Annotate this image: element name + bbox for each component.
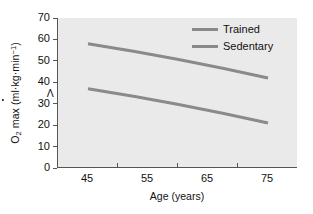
legend-swatch [192,28,218,31]
x-axis-tick-label: 55 [141,172,153,185]
chart-figure: VO2 max (ml·kg·min−1) 010203040506070 Tr… [0,0,313,214]
x-axis-tick-label: 65 [201,172,213,185]
y-axis-tick-label: 0 [44,161,50,174]
y-axis-tick-label: 60 [38,32,50,45]
y-axis-tick-label: 10 [38,140,50,153]
legend-item: Trained [192,22,273,36]
y-axis-tick-label: 50 [38,54,50,67]
x-axis-tick-mark [237,163,238,168]
x-axis-tick-mark [117,163,118,168]
plot-area: TrainedSedentary [57,18,297,168]
y-axis-tick-label: 40 [38,75,50,88]
x-axis-tick-label: 45 [81,172,93,185]
x-axis-tick-mark [177,163,178,168]
legend: TrainedSedentary [192,22,273,53]
y-axis-tick-label: 70 [38,11,50,24]
legend-swatch [192,45,218,48]
y-axis-tick-label: 20 [38,118,50,131]
x-axis-tick-label: 75 [261,172,273,185]
x-axis-title: Age (years) [57,190,297,202]
legend-label: Trained [223,23,260,36]
y-axis: 010203040506070 [0,18,57,169]
series-line-sedentary [88,89,268,123]
legend-label: Sedentary [223,40,273,53]
legend-item: Sedentary [192,39,273,53]
y-axis-tick-label: 30 [38,97,50,110]
